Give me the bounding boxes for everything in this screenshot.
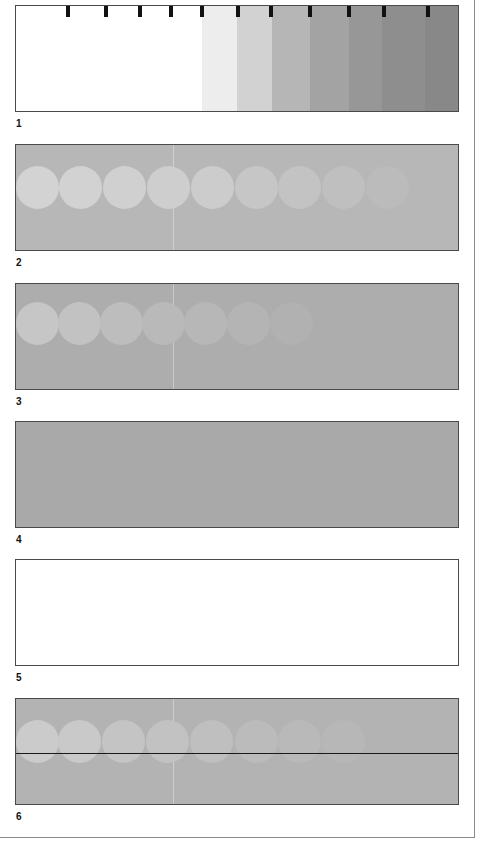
circle bbox=[59, 166, 102, 209]
circle bbox=[16, 166, 59, 209]
panel-label: 2 bbox=[16, 257, 22, 268]
panel-label: 5 bbox=[16, 672, 22, 683]
circle bbox=[235, 166, 278, 209]
circle bbox=[235, 720, 278, 763]
circle bbox=[322, 720, 365, 763]
panel-label: 4 bbox=[16, 534, 22, 545]
tick-mark bbox=[269, 6, 273, 17]
tick-mark bbox=[66, 6, 70, 17]
gray-step-band bbox=[349, 6, 382, 111]
tick-mark bbox=[308, 6, 312, 17]
circle bbox=[227, 302, 270, 345]
gray-step-band bbox=[16, 6, 202, 111]
circle bbox=[146, 720, 189, 763]
panel-3 bbox=[15, 283, 459, 390]
panel-label: 1 bbox=[16, 118, 22, 129]
horizontal-line bbox=[16, 753, 458, 754]
gray-step-band bbox=[382, 6, 425, 111]
panel-2 bbox=[15, 144, 459, 251]
circle bbox=[191, 166, 234, 209]
circle bbox=[142, 302, 185, 345]
tick-mark bbox=[169, 6, 173, 17]
circle bbox=[103, 166, 146, 209]
circle bbox=[58, 720, 101, 763]
tick-mark bbox=[426, 6, 430, 17]
tick-mark bbox=[382, 6, 386, 17]
tick-mark bbox=[104, 6, 108, 17]
panel-label: 3 bbox=[16, 396, 22, 407]
circle bbox=[102, 720, 145, 763]
panel-6 bbox=[15, 698, 459, 805]
gray-step-band bbox=[237, 6, 272, 111]
circle bbox=[100, 302, 143, 345]
tick-mark bbox=[236, 6, 240, 17]
circle bbox=[366, 166, 409, 209]
panel-4 bbox=[15, 421, 459, 528]
panel-1 bbox=[15, 5, 459, 112]
circle bbox=[58, 302, 101, 345]
tick-mark bbox=[347, 6, 351, 17]
circle bbox=[16, 302, 59, 345]
tick-mark bbox=[138, 6, 142, 17]
circle bbox=[147, 166, 190, 209]
gray-step-band bbox=[310, 6, 349, 111]
panel-5 bbox=[15, 559, 459, 666]
gray-step-band bbox=[425, 6, 459, 111]
circle bbox=[270, 302, 313, 345]
gray-step-band bbox=[272, 6, 310, 111]
circle bbox=[278, 720, 321, 763]
panel-label: 6 bbox=[16, 811, 22, 822]
tick-mark bbox=[200, 6, 204, 17]
circle bbox=[184, 302, 227, 345]
circle bbox=[190, 720, 233, 763]
circle bbox=[16, 720, 59, 763]
circle bbox=[322, 166, 365, 209]
gray-step-band bbox=[202, 6, 237, 111]
circle bbox=[278, 166, 321, 209]
